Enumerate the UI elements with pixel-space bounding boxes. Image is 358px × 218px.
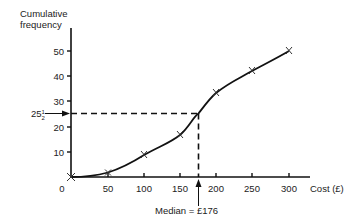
arrow-icon [62, 111, 70, 117]
arrow-icon [196, 179, 202, 187]
median-x-label: Median = £176 [155, 205, 218, 216]
x-tick-0: 0 [59, 183, 64, 194]
chart-svg: Cumulative frequency 50 40 30 20 10 0 50… [0, 0, 358, 218]
y-tick-30: 30 [53, 96, 64, 107]
x-tick-250: 250 [244, 183, 260, 194]
x-tick-50: 50 [103, 183, 114, 194]
x-ticks: 0 50 100 150 200 250 300 Cost (£) [59, 173, 343, 194]
x-tick-300: 300 [281, 183, 297, 194]
median-y-label: 2512 [31, 108, 46, 121]
x-axis-label: Cost (£) [310, 183, 344, 194]
y-tick-50: 50 [53, 46, 64, 57]
y-axis-label-line1: Cumulative [20, 8, 68, 19]
y-tick-20: 20 [53, 122, 64, 133]
x-tick-200: 200 [208, 183, 224, 194]
x-tick-150: 150 [172, 183, 188, 194]
y-ticks: 50 40 30 20 10 [53, 46, 71, 158]
y-tick-40: 40 [53, 71, 64, 82]
cumulative-frequency-chart: Cumulative frequency 50 40 30 20 10 0 50… [0, 0, 358, 218]
y-axis-label-line2: frequency [20, 19, 62, 30]
y-tick-10: 10 [53, 147, 64, 158]
x-tick-100: 100 [136, 183, 152, 194]
